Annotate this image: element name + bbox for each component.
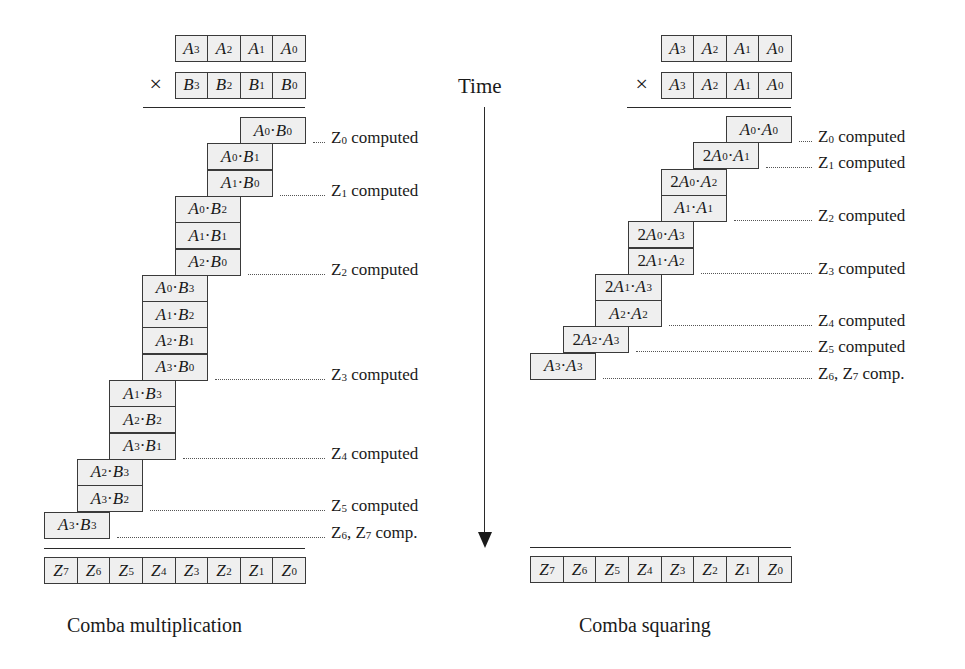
operand-a-cell: A3 bbox=[175, 35, 209, 62]
partial-product-cell: A3·A3 bbox=[530, 353, 596, 380]
milestone-label: Z1 computed bbox=[331, 181, 418, 203]
dotted-leader bbox=[766, 167, 812, 168]
result-cell: Z6 bbox=[563, 556, 597, 583]
partial-product-cell: A3·B2 bbox=[77, 485, 143, 512]
milestone-label: Z2 computed bbox=[818, 206, 905, 228]
partial-product-cell: A0·A0 bbox=[726, 116, 792, 143]
result-cell: Z0 bbox=[272, 557, 306, 584]
result-cell: Z4 bbox=[628, 556, 662, 583]
partial-product-cell: A1·B0 bbox=[207, 170, 273, 197]
milestone-label: Z3 computed bbox=[331, 365, 418, 387]
milestone-label: Z0 computed bbox=[331, 128, 418, 150]
partial-product-cell: 2A0·A1 bbox=[693, 142, 759, 169]
partial-product-cell: 2A0·A2 bbox=[661, 169, 727, 196]
dotted-leader bbox=[701, 273, 812, 274]
partial-product-cell: A1·A1 bbox=[661, 195, 727, 222]
result-cell: Z3 bbox=[661, 556, 695, 583]
milestone-label: Z4 computed bbox=[818, 311, 905, 333]
partial-product-cell: 2A1·A2 bbox=[628, 248, 694, 275]
dotted-leader bbox=[636, 351, 812, 352]
milestone-label: Z0 computed bbox=[818, 127, 905, 149]
comba-multiplication-caption: Comba multiplication bbox=[67, 614, 242, 637]
partial-product-cell: A0·B0 bbox=[240, 117, 306, 144]
result-cell: Z0 bbox=[758, 556, 792, 583]
result-cell: Z1 bbox=[240, 557, 274, 584]
milestone-label: Z2 computed bbox=[331, 260, 418, 282]
partial-product-cell: A3·B3 bbox=[44, 512, 110, 539]
operand-a-cell: A2 bbox=[207, 35, 241, 62]
operand-a-cell: A1 bbox=[726, 35, 760, 62]
partial-product-cell: A3·B0 bbox=[142, 354, 208, 381]
result-cell: Z2 bbox=[207, 557, 241, 584]
operand-b-cell: B0 bbox=[272, 72, 306, 99]
result-cell: Z5 bbox=[595, 556, 629, 583]
operand-rule bbox=[627, 107, 791, 108]
operand-b-cell: A0 bbox=[758, 72, 792, 99]
partial-product-cell: A0·B1 bbox=[207, 143, 273, 170]
result-cell: Z2 bbox=[693, 556, 727, 583]
milestone-label: Z3 computed bbox=[818, 259, 905, 281]
operand-rule bbox=[143, 107, 305, 108]
milestone-label: Z6, Z7 comp. bbox=[331, 523, 418, 545]
operand-a-cell: A3 bbox=[661, 35, 695, 62]
result-rule bbox=[530, 547, 791, 548]
result-cell: Z7 bbox=[44, 557, 78, 584]
partial-product-cell: A2·B0 bbox=[175, 249, 241, 276]
comba-squaring-caption: Comba squaring bbox=[579, 614, 711, 637]
partial-product-cell: A2·A2 bbox=[595, 300, 661, 327]
partial-product-cell: A1·B2 bbox=[142, 301, 208, 328]
dotted-leader bbox=[734, 220, 812, 221]
times-symbol: × bbox=[150, 73, 162, 95]
milestone-label: Z4 computed bbox=[331, 444, 418, 466]
milestone-label: Z6, Z7 comp. bbox=[818, 364, 905, 386]
operand-a-cell: A1 bbox=[240, 35, 274, 62]
dotted-leader bbox=[215, 379, 325, 380]
operand-b-cell: A2 bbox=[693, 72, 727, 99]
result-cell: Z4 bbox=[142, 557, 176, 584]
dotted-leader bbox=[799, 141, 812, 142]
milestone-label: Z5 computed bbox=[331, 496, 418, 518]
partial-product-cell: A2·B2 bbox=[109, 406, 175, 433]
result-cell: Z7 bbox=[530, 556, 564, 583]
dotted-leader bbox=[313, 142, 325, 143]
operand-b-cell: B1 bbox=[240, 72, 274, 99]
dotted-leader bbox=[150, 510, 325, 511]
operand-a-cell: A2 bbox=[693, 35, 727, 62]
result-cell: Z1 bbox=[726, 556, 760, 583]
result-cell: Z5 bbox=[109, 557, 143, 584]
dotted-leader bbox=[669, 325, 812, 326]
result-cell: Z3 bbox=[175, 557, 209, 584]
time-axis-arrowhead bbox=[478, 532, 492, 548]
milestone-label: Z5 computed bbox=[818, 337, 905, 359]
partial-product-cell: A3·B1 bbox=[109, 433, 175, 460]
partial-product-cell: A0·B2 bbox=[175, 196, 241, 223]
operand-b-cell: A3 bbox=[661, 72, 695, 99]
time-axis-label: Time bbox=[458, 74, 502, 99]
dotted-leader bbox=[603, 378, 812, 379]
partial-product-cell: 2A1·A3 bbox=[595, 274, 661, 301]
result-rule bbox=[44, 548, 305, 549]
partial-product-cell: 2A0·A3 bbox=[628, 221, 694, 248]
partial-product-cell: A1·B3 bbox=[109, 380, 175, 407]
milestone-label: Z1 computed bbox=[818, 153, 905, 175]
partial-product-cell: 2A2·A3 bbox=[563, 326, 629, 353]
operand-b-cell: B2 bbox=[207, 72, 241, 99]
partial-product-cell: A1·B1 bbox=[175, 222, 241, 249]
times-symbol: × bbox=[636, 73, 648, 95]
operand-a-cell: A0 bbox=[272, 35, 306, 62]
partial-product-cell: A0·B3 bbox=[142, 275, 208, 302]
dotted-leader bbox=[248, 274, 325, 275]
partial-product-cell: A2·B1 bbox=[142, 327, 208, 354]
dotted-leader bbox=[117, 537, 325, 538]
dotted-leader bbox=[183, 458, 325, 459]
result-cell: Z6 bbox=[77, 557, 111, 584]
operand-b-cell: B3 bbox=[175, 72, 209, 99]
time-axis-line bbox=[484, 107, 485, 535]
operand-a-cell: A0 bbox=[758, 35, 792, 62]
dotted-leader bbox=[280, 195, 325, 196]
operand-b-cell: A1 bbox=[726, 72, 760, 99]
partial-product-cell: A2·B3 bbox=[77, 459, 143, 486]
